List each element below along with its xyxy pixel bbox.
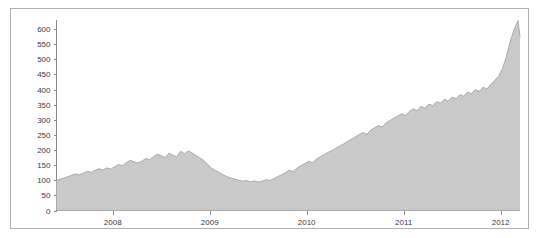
y-tick-label: 600 bbox=[37, 25, 51, 34]
x-tick-group: 20082009201020112012 bbox=[104, 211, 510, 227]
x-tick-label: 2011 bbox=[395, 218, 413, 227]
x-tick-label: 2012 bbox=[492, 218, 510, 227]
series-area-fill bbox=[57, 21, 521, 211]
x-tick-label: 2008 bbox=[104, 218, 122, 227]
y-tick-label: 450 bbox=[37, 70, 51, 79]
x-axis-group: 20082009201020112012 bbox=[57, 211, 521, 227]
y-tick-label: 250 bbox=[37, 131, 51, 140]
y-tick-label: 0 bbox=[46, 207, 51, 216]
y-tick-label: 550 bbox=[37, 40, 51, 49]
y-axis-group: 050100150200250300350400450500550600 bbox=[37, 20, 56, 216]
y-tick-label: 200 bbox=[37, 146, 51, 155]
y-tick-group: 050100150200250300350400450500550600 bbox=[37, 25, 56, 215]
y-tick-label: 300 bbox=[37, 116, 51, 125]
stock-area-chart: 050100150200250300350400450500550600 200… bbox=[0, 0, 539, 238]
y-tick-label: 500 bbox=[37, 55, 51, 64]
y-tick-label: 350 bbox=[37, 101, 51, 110]
y-tick-label: 400 bbox=[37, 86, 51, 95]
y-tick-label: 50 bbox=[42, 191, 51, 200]
x-tick-label: 2010 bbox=[298, 218, 316, 227]
y-tick-label: 100 bbox=[37, 176, 51, 185]
y-tick-label: 150 bbox=[37, 161, 51, 170]
x-tick-label: 2009 bbox=[201, 218, 219, 227]
